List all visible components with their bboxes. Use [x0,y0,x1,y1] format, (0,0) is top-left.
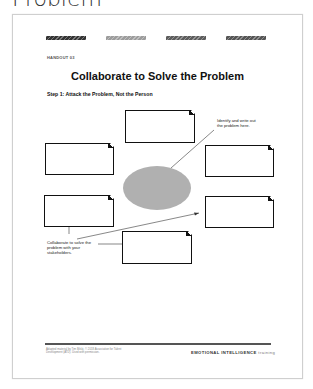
handout-page: HANDOUT 03 Collaborate to Solve the Prob… [12,14,303,379]
problem-box-bottom[interactable] [122,231,192,264]
brand-light: training [258,350,275,355]
problem-box-left-lower[interactable] [44,195,114,227]
collaborate-note: Collaborate to solve the problem with yo… [47,240,95,255]
section-heading: Problem [12,0,102,11]
brand-bold: EMOTIONAL INTELLIGENCE [191,350,257,355]
identify-note: Identify and write out the problem here. [217,118,257,128]
page-fold-icon [268,196,274,201]
problem-box-right-lower[interactable] [205,196,274,228]
page-fold-icon [186,231,192,236]
problem-box-top[interactable] [125,110,195,143]
page-fold-icon [268,145,274,150]
problem-ellipse[interactable] [123,166,191,210]
page-fold-icon [108,143,114,148]
problem-box-right-upper[interactable] [205,145,274,177]
problem-box-left-upper[interactable] [45,143,114,175]
page-fold-icon [108,195,114,200]
footer-credit: Adapted material by Tim Bilski, © 2018 A… [46,348,136,355]
footer-divider [45,343,271,345]
footer-brand: EMOTIONAL INTELLIGENCE training [191,350,275,355]
page-fold-icon [189,110,195,115]
